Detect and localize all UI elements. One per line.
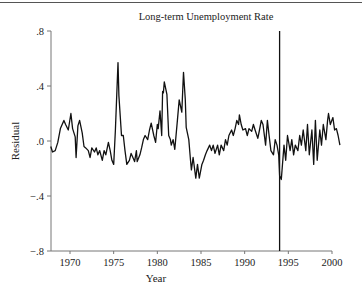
x-tick-label: 1995 xyxy=(278,257,299,268)
x-axis-ticks: 1970197519801985199019952000 xyxy=(60,251,343,268)
residual-line xyxy=(51,63,340,180)
chart-title: Long-term Unemployment Rate xyxy=(139,11,274,22)
y-tick-label: .0 xyxy=(36,136,44,147)
x-tick-label: 1975 xyxy=(103,257,124,268)
residual-series xyxy=(51,63,340,180)
y-tick-label: −.4 xyxy=(30,191,45,202)
y-tick-label: .4 xyxy=(36,81,45,92)
y-axis-label: Residual xyxy=(9,122,21,161)
x-tick-label: 1970 xyxy=(60,257,81,268)
x-tick-label: 1980 xyxy=(147,257,168,268)
y-axis-ticks: .8.4.0−.4−.8 xyxy=(30,26,51,257)
x-axis-label: Year xyxy=(146,272,167,284)
axes xyxy=(51,31,332,251)
chart-canvas: Long-term Unemployment Rate .8.4.0−.4−.8… xyxy=(0,0,362,303)
x-tick-label: 1985 xyxy=(191,257,212,268)
x-tick-label: 2000 xyxy=(322,257,343,268)
x-tick-label: 1990 xyxy=(234,257,255,268)
y-tick-label: −.8 xyxy=(30,246,44,257)
y-tick-label: .8 xyxy=(36,26,44,37)
